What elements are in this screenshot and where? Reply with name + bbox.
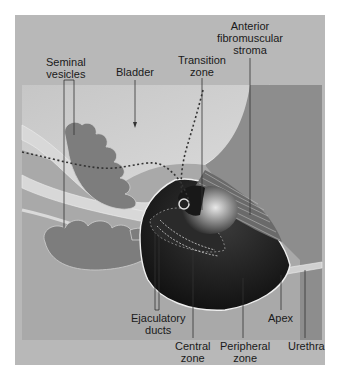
label-central-zone: Central zone <box>175 340 210 364</box>
label-line: Peripheral <box>220 340 270 352</box>
label-line: Apex <box>268 312 293 324</box>
label-ejaculatory-ducts: Ejaculatory ducts <box>131 312 185 336</box>
label-line: zone <box>220 352 270 364</box>
label-transition-zone: Transition zone <box>178 54 226 78</box>
label-line: Seminal <box>46 56 86 68</box>
label-line: Ejaculatory <box>131 312 185 324</box>
label-anterior-fibromuscular-stroma: Anterior fibromuscular stroma <box>217 20 283 56</box>
label-seminal-vesicles: Seminal vesicles <box>46 56 86 80</box>
label-line: Anterior <box>217 20 283 32</box>
label-line: zone <box>175 352 210 364</box>
label-line: stroma <box>217 44 283 56</box>
label-bladder: Bladder <box>116 66 154 78</box>
label-line: Bladder <box>116 66 154 78</box>
label-apex: Apex <box>268 312 293 324</box>
label-line: fibromuscular <box>217 32 283 44</box>
label-line: Central <box>175 340 210 352</box>
label-line: zone <box>178 66 226 78</box>
label-urethra: Urethra <box>288 340 325 352</box>
label-peripheral-zone: Peripheral zone <box>220 340 270 364</box>
label-line: ducts <box>131 324 185 336</box>
label-line: Urethra <box>288 340 325 352</box>
label-line: vesicles <box>46 68 86 80</box>
